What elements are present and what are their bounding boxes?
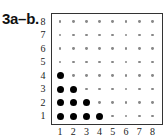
x-tick-label: 2 [68,127,78,136]
lattice-point [72,20,75,23]
lattice-point [151,101,154,104]
lattice-point [85,47,88,50]
highlighted-point [57,99,64,106]
highlighted-point [83,99,90,106]
lattice-point [151,47,154,50]
lattice-point [138,88,141,91]
highlighted-point [96,113,103,120]
lattice-point [98,20,101,23]
lattice-point [72,34,75,37]
y-tick-label: 5 [38,57,48,67]
lattice-point [85,20,88,23]
y-tick-label: 7 [38,30,48,40]
y-tick-label: 6 [38,44,48,54]
highlighted-point [83,113,90,120]
lattice-point [138,74,141,77]
lattice-point [72,74,75,77]
lattice-point [151,20,154,23]
highlighted-point [70,86,77,93]
lattice-point [138,20,141,23]
x-tick-label: 4 [95,127,105,136]
lattice-point [98,74,101,77]
lattice-point [138,34,141,37]
lattice-point [138,115,141,118]
y-tick-label: 1 [38,111,48,121]
highlighted-point [57,113,64,120]
y-tick-label: 4 [38,71,48,81]
lattice-point [85,74,88,77]
lattice-point [72,61,75,64]
y-tick-label: 2 [38,98,48,108]
highlighted-point [70,113,77,120]
problem-label: 3a–b. [2,10,39,27]
lattice-point [98,47,101,50]
x-tick-label: 7 [134,127,144,136]
lattice-point [98,101,101,104]
y-tick-label: 3 [38,84,48,94]
y-tick-label: 8 [38,17,48,27]
x-tick-label: 8 [147,127,157,136]
lattice-point [151,74,154,77]
lattice-point [138,61,141,64]
x-tick-label: 5 [108,127,118,136]
lattice-point [138,101,141,104]
highlighted-point [70,99,77,106]
x-tick-label: 6 [121,127,131,136]
x-tick-label: 1 [55,127,65,136]
highlighted-point [57,86,64,93]
lattice-point [72,47,75,50]
plot-frame [51,13,163,125]
x-tick-label: 3 [81,127,91,136]
lattice-point [138,47,141,50]
highlighted-point [57,72,64,79]
